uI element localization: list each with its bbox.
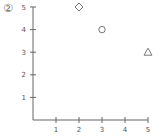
x-tick-label: 4 <box>123 126 128 134</box>
data-points <box>75 3 152 55</box>
axes <box>33 7 148 120</box>
y-tick-label: 3 <box>22 49 26 57</box>
scatter-chart: ② 1234512345 <box>0 0 161 137</box>
y-tick-label: 4 <box>22 26 27 34</box>
circle-marker <box>99 26 105 32</box>
triangle-marker <box>144 48 152 55</box>
x-tick-label: 1 <box>54 126 58 134</box>
x-tick-label: 2 <box>77 126 81 134</box>
y-tick-label: 5 <box>22 4 26 12</box>
diamond-marker <box>75 3 83 11</box>
x-tick-label: 3 <box>100 126 104 134</box>
figure-number-badge: ② <box>3 2 13 15</box>
axis-ticks: 1234512345 <box>22 4 151 135</box>
y-tick-label: 1 <box>22 94 26 102</box>
y-tick-label: 2 <box>22 71 26 79</box>
x-tick-label: 5 <box>146 126 150 134</box>
